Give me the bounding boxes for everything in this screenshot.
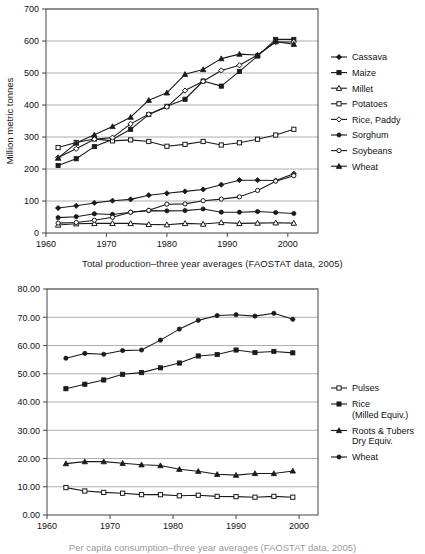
legend: PulsesRice(Milled Equiv.)Roots & TubersD… — [331, 383, 415, 462]
data-point — [177, 361, 181, 365]
data-point — [237, 195, 241, 199]
data-point — [292, 211, 296, 215]
legend-label[interactable]: Potatoes — [352, 99, 388, 109]
data-point — [110, 215, 114, 219]
legend-label[interactable]: Maize — [352, 68, 376, 78]
data-point — [83, 382, 87, 386]
data-point — [253, 495, 257, 499]
y-tick-label-30: 30.00 — [17, 426, 40, 436]
legend: CassavaMaizeMilletPotatoesRice, PaddySor… — [331, 52, 401, 171]
total-production-chart: 0100200300400500600700196019701980199020… — [0, 0, 425, 258]
data-point — [201, 199, 205, 203]
data-point — [219, 84, 223, 88]
x-tick-label-1970: 1970 — [96, 239, 116, 249]
legend-label[interactable]: Sorghum — [352, 130, 389, 140]
legend-marker — [337, 402, 341, 406]
y-tick-label-700: 700 — [24, 4, 39, 14]
y-tick-label-300: 300 — [24, 132, 39, 142]
data-point — [272, 349, 276, 353]
data-point — [183, 202, 187, 206]
x-tick-label-1980: 1980 — [163, 521, 183, 531]
bottom-chart-caption: Per capita consumption–three year averag… — [0, 543, 425, 553]
y-tick-label-0: 0 — [34, 228, 39, 238]
data-point — [219, 210, 223, 214]
data-point — [121, 348, 125, 352]
y-tick-label-600: 600 — [24, 36, 39, 46]
bottom-chart-caption-clipped: Per capita consumption–three year averag… — [0, 543, 425, 554]
data-point — [129, 127, 133, 131]
x-tick-label-1960: 1960 — [37, 521, 57, 531]
legend-label[interactable]: Soybeans — [352, 146, 393, 156]
data-point — [56, 163, 60, 167]
data-point — [83, 489, 87, 493]
top-chart-caption: Total production–three year averages (FA… — [0, 258, 425, 269]
data-point — [201, 207, 205, 211]
legend-label[interactable]: Wheat — [352, 452, 379, 462]
y-tick-label-0: 0.00 — [22, 510, 40, 520]
y-axis: 0.0010.0020.0030.0040.0050.0060.0070.008… — [17, 284, 47, 520]
data-point — [253, 314, 257, 318]
x-tick-label-1970: 1970 — [100, 521, 120, 531]
x-axis: 19601970198019902000 — [36, 233, 298, 249]
legend-label[interactable]: Dry Equiv. — [352, 436, 393, 446]
y-axis-title: Million metric tonnes — [4, 77, 15, 164]
top-figure: 0100200300400500600700196019701980199020… — [0, 0, 425, 280]
data-point — [158, 338, 162, 342]
y-tick-label-70: 70.00 — [17, 313, 40, 323]
data-point — [139, 493, 143, 497]
y-tick-label-50: 50.00 — [17, 369, 40, 379]
data-point — [237, 141, 241, 145]
data-point — [274, 133, 278, 137]
legend-label[interactable]: Wheat — [352, 162, 379, 172]
y-tick-label-80: 80.00 — [17, 284, 40, 294]
data-point — [196, 354, 200, 358]
legend-label[interactable]: Pulses — [352, 383, 380, 393]
x-tick-label-2000: 2000 — [289, 521, 309, 531]
data-point — [147, 208, 151, 212]
legend-label[interactable]: Rice, Paddy — [352, 115, 401, 125]
data-point — [201, 139, 205, 143]
data-point — [139, 371, 143, 375]
y-tick-label-60: 60.00 — [17, 341, 40, 351]
legend-label[interactable]: Cassava — [352, 52, 387, 62]
data-point — [92, 212, 96, 216]
per-capita-consumption-chart: 0.0010.0020.0030.0040.0050.0060.0070.008… — [0, 280, 425, 540]
data-point — [92, 218, 96, 222]
x-axis: 19601970198019902000 — [37, 515, 309, 531]
y-tick-label-500: 500 — [24, 68, 39, 78]
data-point — [64, 387, 68, 391]
data-point — [255, 209, 259, 213]
data-point — [291, 317, 295, 321]
data-point — [215, 494, 219, 498]
legend-label[interactable]: Roots & Tubers — [352, 426, 415, 436]
data-point — [56, 216, 60, 220]
legend-marker — [337, 133, 341, 137]
legend-marker — [337, 386, 341, 390]
legend-label[interactable]: Rice — [352, 399, 370, 409]
data-point — [92, 145, 96, 149]
legend-marker — [337, 71, 341, 75]
data-point — [237, 69, 241, 73]
data-point — [219, 197, 223, 201]
legend-label[interactable]: (Milled Equiv.) — [352, 410, 408, 420]
x-tick-label-1980: 1980 — [157, 239, 177, 249]
data-point — [255, 188, 259, 192]
data-point — [158, 493, 162, 497]
legend-marker — [336, 54, 341, 59]
data-point — [292, 174, 296, 178]
data-point — [129, 138, 133, 142]
data-point — [234, 348, 238, 352]
x-tick-label-1990: 1990 — [226, 521, 246, 531]
data-point — [165, 202, 169, 206]
data-point — [183, 97, 187, 101]
data-point — [121, 372, 125, 376]
legend-label[interactable]: Millet — [352, 84, 374, 94]
data-point — [253, 350, 257, 354]
data-point — [177, 327, 181, 331]
data-point — [74, 215, 78, 219]
data-point — [272, 494, 276, 498]
data-point — [196, 318, 200, 322]
data-point — [255, 137, 259, 141]
y-tick-label-200: 200 — [24, 164, 39, 174]
data-point — [64, 356, 68, 360]
